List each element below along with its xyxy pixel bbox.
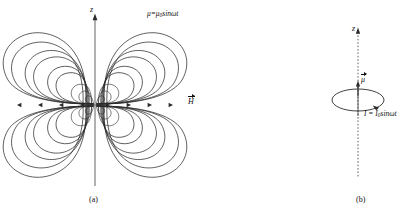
- moment-formula-prefix: μ=μ: [147, 9, 160, 18]
- moment-symbol: μ: [361, 76, 365, 84]
- current-formula-prefix: I = I: [364, 109, 378, 118]
- panel-a-caption: (a): [89, 196, 98, 204]
- panel-a-z-axis: [93, 14, 98, 187]
- panel-b-z-axis-label: z: [352, 25, 355, 33]
- panel-b-moment-vector: [356, 81, 360, 97]
- panel-a-group: [3, 14, 187, 187]
- panel-a-moment-formula: μ=μ0sinωt: [147, 10, 178, 19]
- h-field-symbol: H: [188, 98, 194, 106]
- current-formula-suffix: sinωt: [381, 109, 397, 118]
- panel-b-current-formula: I = I0sinωt: [364, 110, 397, 119]
- panel-b-caption: (b): [356, 196, 365, 204]
- panel-a-z-axis-label: z: [90, 6, 93, 14]
- panel-b-moment-label: μ: [361, 76, 365, 84]
- moment-formula-suffix: sinωt: [162, 9, 178, 18]
- panel-a-h-field-label: H: [188, 98, 194, 106]
- figure-root: z μ=μ0sinωt H (a) z μ I = I0sinωt (b): [0, 0, 413, 213]
- panel-b-group: [332, 28, 384, 179]
